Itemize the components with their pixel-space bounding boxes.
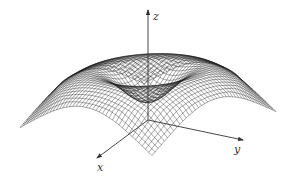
x-axis: [97, 120, 148, 158]
y-axis-label: y: [233, 143, 241, 156]
surface-plot: z x y: [0, 0, 281, 184]
mesh-line: [63, 54, 187, 108]
axes: z x y: [97, 10, 243, 174]
y-axis: [148, 120, 243, 140]
x-axis-label: x: [97, 161, 104, 174]
z-axis-label: z: [152, 10, 159, 23]
